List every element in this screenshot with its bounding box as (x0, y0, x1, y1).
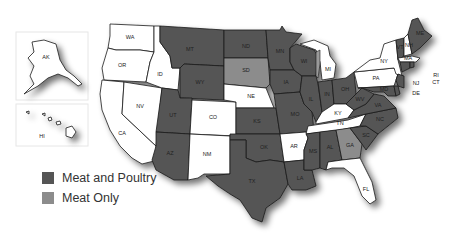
label-ne: NE (247, 93, 255, 99)
state-hi[interactable] (26, 111, 76, 138)
state-ak[interactable] (24, 40, 82, 94)
label-la: LA (297, 175, 304, 181)
label-tn: TN (336, 120, 343, 126)
label-nh: NH (405, 42, 413, 48)
state-fl[interactable] (326, 158, 376, 204)
legend-label-meat-only: Meat Only (62, 191, 119, 205)
label-hi: HI (39, 133, 45, 139)
label-tx: TX (248, 178, 255, 184)
label-wy: WY (196, 79, 205, 85)
label-vt: VT (396, 44, 404, 50)
state-ct[interactable] (400, 62, 410, 72)
label-ut: UT (169, 112, 177, 118)
label-nd: ND (242, 43, 250, 49)
label-sd: SD (242, 67, 250, 73)
label-ky: KY (334, 110, 342, 116)
label-mt: MT (186, 46, 195, 52)
label-md: MD (380, 86, 389, 92)
label-pa: PA (373, 75, 380, 81)
label-nm: NM (203, 151, 212, 157)
label-wv: WV (356, 96, 365, 102)
label-or: OR (118, 62, 126, 68)
lake-michigan (316, 50, 320, 78)
label-ok: OK (260, 144, 268, 150)
label-de: DE (412, 90, 420, 96)
label-mn: MN (276, 48, 285, 54)
label-nj: NJ (413, 80, 420, 86)
label-ak: AK (42, 54, 50, 60)
label-ks: KS (253, 118, 261, 124)
label-wa: WA (126, 34, 135, 40)
label-me: ME (416, 30, 425, 36)
label-ar: AR (290, 143, 298, 149)
label-oh: OH (341, 86, 349, 92)
label-mi: MI (325, 66, 332, 72)
legend-swatch-meat-only (42, 192, 54, 204)
label-ga: GA (346, 142, 354, 148)
label-az: AZ (166, 150, 174, 156)
label-il: IL (309, 96, 314, 102)
label-nc: NC (376, 116, 384, 122)
label-mo: MO (291, 111, 301, 117)
state-or[interactable] (102, 48, 154, 82)
map-legend: Meat and Poultry Meat Only (42, 168, 157, 208)
hawaii-inset-frame (16, 104, 88, 146)
label-ny: NY (380, 58, 388, 64)
label-ia: IA (283, 79, 289, 85)
label-sc: SC (362, 132, 370, 138)
label-al: AL (327, 144, 334, 150)
legend-item-meat-only: Meat Only (42, 188, 157, 208)
label-ms: MS (309, 148, 318, 154)
label-ca: CA (118, 130, 126, 136)
label-ct: CT (432, 79, 440, 85)
label-va: VA (375, 102, 382, 108)
legend-item-meat-and-poultry: Meat and Poultry (42, 168, 157, 188)
label-fl: FL (363, 186, 369, 192)
label-co: CO (209, 114, 218, 120)
label-wi: WI (301, 58, 308, 64)
legend-label-meat-and-poultry: Meat and Poultry (62, 171, 157, 185)
label-in: IN (324, 91, 330, 97)
legend-swatch-meat-and-poultry (42, 172, 54, 184)
label-id: ID (157, 71, 163, 77)
label-ma: MA (404, 55, 413, 61)
state-ri[interactable] (410, 62, 414, 68)
label-ri: RI (433, 72, 439, 78)
label-nv: NV (136, 103, 144, 109)
